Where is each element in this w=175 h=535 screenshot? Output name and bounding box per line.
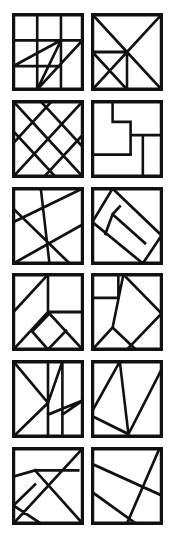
panel-7-cuts	[13, 275, 82, 350]
puzzle-cell-2[interactable]	[88, 9, 168, 96]
panel-1[interactable]	[12, 13, 84, 91]
panel-3-cuts	[13, 102, 82, 177]
puzzle-sheet	[0, 0, 175, 535]
puzzle-cell-11[interactable]	[8, 442, 88, 529]
puzzle-grid	[0, 0, 175, 535]
panel-9-cuts	[13, 362, 82, 437]
panel-12-svg	[91, 447, 163, 525]
panel-4-frame	[93, 102, 162, 177]
panel-4-cuts	[93, 102, 162, 177]
panel-9[interactable]	[12, 360, 84, 438]
panel-9-svg	[12, 360, 84, 438]
puzzle-cell-3[interactable]	[8, 96, 88, 183]
panel-11[interactable]	[12, 447, 84, 525]
puzzle-cell-12[interactable]	[88, 442, 168, 529]
puzzle-cell-6[interactable]	[88, 182, 168, 269]
panel-8-cuts	[93, 275, 162, 350]
panel-12-frame	[93, 448, 162, 523]
panel-5-svg	[12, 187, 84, 265]
panel-7[interactable]	[12, 273, 84, 351]
panel-1-cuts	[13, 15, 82, 90]
panel-3-svg	[12, 100, 84, 178]
panel-10-svg	[91, 360, 163, 438]
panel-1-svg	[12, 13, 84, 91]
panel-4-svg	[91, 100, 163, 178]
panel-12-cuts	[93, 448, 162, 523]
panel-5-cuts	[13, 188, 82, 263]
panel-5[interactable]	[12, 187, 84, 265]
panel-2-svg	[91, 13, 163, 91]
puzzle-cell-7[interactable]	[8, 269, 88, 356]
puzzle-cell-1[interactable]	[8, 9, 88, 96]
puzzle-cell-5[interactable]	[8, 182, 88, 269]
panel-2-cuts	[93, 15, 162, 90]
panel-6[interactable]	[91, 187, 163, 265]
puzzle-cell-10[interactable]	[88, 356, 168, 443]
puzzle-cell-4[interactable]	[88, 96, 168, 183]
panel-8-svg	[91, 273, 163, 351]
panel-10-cuts	[93, 362, 162, 435]
panel-11-cuts	[13, 448, 82, 523]
panel-3[interactable]	[12, 100, 84, 178]
panel-11-svg	[12, 447, 84, 525]
panel-4[interactable]	[91, 100, 163, 178]
panel-7-svg	[12, 273, 84, 351]
panel-6-cuts	[93, 188, 162, 263]
panel-8[interactable]	[91, 273, 163, 351]
panel-12[interactable]	[91, 447, 163, 525]
puzzle-cell-9[interactable]	[8, 356, 88, 443]
puzzle-cell-8[interactable]	[88, 269, 168, 356]
panel-2[interactable]	[91, 13, 163, 91]
panel-10[interactable]	[91, 360, 163, 438]
panel-6-svg	[91, 187, 163, 265]
